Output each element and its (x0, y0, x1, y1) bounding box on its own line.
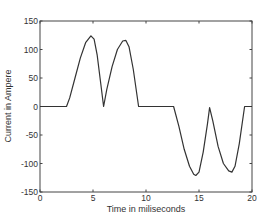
x-tick-label: 15 (194, 193, 204, 203)
x-axis-label: Time in miliseconds (107, 204, 186, 214)
y-axis-label: Current in Ampere (3, 69, 13, 142)
line-chart: 05101520150100500-50-100-150 Time in mil… (0, 0, 268, 217)
current-line (40, 36, 252, 176)
y-tick-label: -50 (26, 130, 39, 140)
plot-axes: 05101520150100500-50-100-150 (21, 16, 257, 203)
x-tick-label: 20 (247, 193, 257, 203)
y-tick-label: 150 (24, 16, 38, 26)
y-tick-label: -150 (21, 187, 38, 197)
x-tick-label: 0 (38, 193, 43, 203)
x-tick-label: 5 (91, 193, 96, 203)
y-tick-label: 0 (33, 102, 38, 112)
y-tick-label: -100 (21, 159, 38, 169)
y-tick-label: 50 (29, 73, 39, 83)
y-tick-label: 100 (24, 45, 38, 55)
x-tick-label: 10 (141, 193, 151, 203)
